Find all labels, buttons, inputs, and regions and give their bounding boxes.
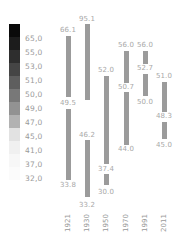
value-label-top: 95.1 — [75, 15, 99, 23]
x-tick-label: 2011 — [160, 213, 168, 233]
bar-upper — [162, 82, 167, 112]
value-label-bottom: 50.0 — [133, 98, 157, 106]
legend-swatch-11 — [9, 167, 20, 180]
legend-label: 37,0 — [25, 160, 43, 169]
x-tick-label: 1930 — [83, 213, 91, 233]
bar-upper — [66, 36, 71, 97]
value-label-mid: 46.2 — [75, 131, 99, 139]
legend-swatch-6 — [9, 102, 20, 115]
legend-swatch-9 — [9, 141, 20, 154]
legend-swatch-8 — [9, 128, 20, 141]
value-label-mid: 48.3 — [152, 112, 176, 120]
bar-lower — [162, 122, 167, 139]
legend-label: 32,0 — [25, 174, 43, 183]
legend-swatch-5 — [9, 89, 20, 102]
x-tick-label: 1950 — [102, 213, 110, 233]
legend-swatch-3 — [9, 63, 20, 76]
bar-upper — [124, 51, 129, 83]
bar-upper — [104, 76, 109, 164]
value-label-bottom: 45.0 — [152, 141, 176, 149]
bar-lower — [143, 74, 148, 96]
legend-swatch-10 — [9, 154, 20, 167]
value-label-top: 52.0 — [94, 66, 118, 74]
legend-swatch-1 — [9, 37, 20, 50]
bar-lower — [124, 92, 129, 145]
bar-lower — [85, 140, 90, 197]
legend-swatch-7 — [9, 115, 20, 128]
value-label-bottom: 33.2 — [75, 201, 99, 209]
value-label-mid: 52.7 — [133, 64, 157, 72]
bar-lower — [104, 174, 109, 185]
value-label-mid: 49.5 — [56, 99, 80, 107]
x-tick-label: 1991 — [141, 213, 149, 233]
value-label-bottom: 30.0 — [94, 188, 118, 196]
legend-label: 45,0 — [25, 132, 43, 141]
bar-lower — [66, 109, 71, 180]
legend-swatch-0 — [9, 24, 20, 37]
legend-swatch-4 — [9, 76, 20, 89]
bar-upper — [85, 24, 90, 100]
x-tick-label: 1921 — [64, 213, 72, 233]
value-label-mid: 50.7 — [114, 83, 138, 91]
legend-label: 53,0 — [25, 62, 43, 71]
bar-upper — [143, 51, 148, 64]
x-tick-label: 1970 — [122, 213, 130, 233]
legend-label: 55,0 — [25, 48, 43, 57]
legend-label: 50,0 — [25, 90, 43, 99]
legend-label: 65,0 — [25, 34, 43, 43]
value-label-bottom: 33.8 — [56, 181, 80, 189]
value-label-bottom: 44.0 — [114, 145, 138, 153]
legend-label: 51,0 — [25, 76, 43, 85]
legend-label: 47,0 — [25, 118, 43, 127]
legend-swatch-2 — [9, 50, 20, 63]
legend-label: 41,0 — [25, 146, 43, 155]
value-label-top: 56.0 — [133, 41, 157, 49]
legend-label: 49,0 — [25, 104, 43, 113]
value-label-mid: 37.4 — [94, 165, 118, 173]
value-label-top: 66.1 — [56, 26, 80, 34]
value-label-top: 51.0 — [152, 72, 176, 80]
